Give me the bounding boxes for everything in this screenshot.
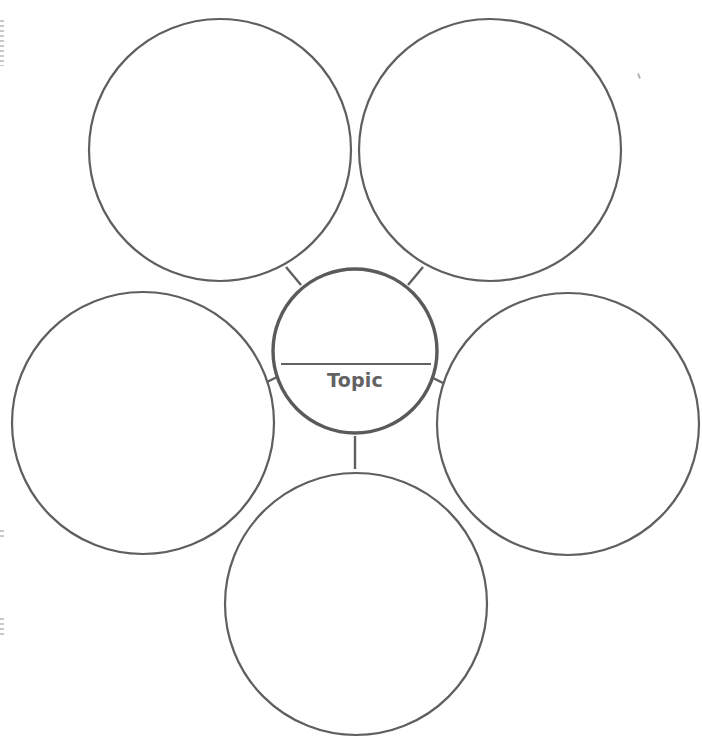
bubble-right-write-area[interactable] <box>447 303 689 545</box>
bubble-bottom-write-area[interactable] <box>235 483 477 725</box>
connector-left <box>267 377 277 382</box>
connector-top-left <box>286 267 301 285</box>
connector-right <box>433 378 443 383</box>
bubble-top-right-write-area[interactable] <box>369 29 611 271</box>
clipped-edge-text <box>0 20 4 66</box>
bubble-top-left-write-area[interactable] <box>99 29 341 271</box>
connector-top-right <box>408 267 423 285</box>
bubble-left-write-area[interactable] <box>22 302 264 544</box>
topic-label: Topic <box>305 369 405 391</box>
clipped-edge-text <box>0 618 4 638</box>
clipped-edge-text <box>0 530 4 538</box>
